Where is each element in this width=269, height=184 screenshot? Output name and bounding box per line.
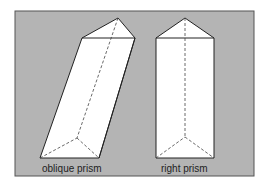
oblique-prism-label: oblique prism (42, 163, 101, 174)
right-prism-label: right prism (161, 163, 208, 174)
prism-diagram: oblique prism right prism (0, 0, 269, 184)
right-prism: right prism (156, 18, 214, 174)
